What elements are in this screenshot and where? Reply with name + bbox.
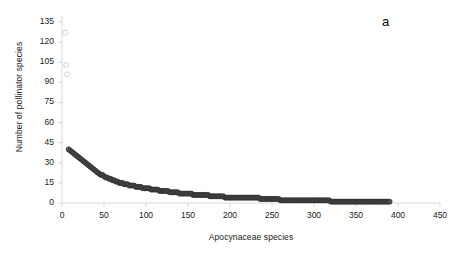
series-rank-abundance xyxy=(66,147,392,204)
data-point xyxy=(65,72,70,77)
plot-canvas xyxy=(0,0,475,255)
series-outliers xyxy=(63,30,70,77)
data-point xyxy=(64,62,69,67)
data-point xyxy=(63,30,68,35)
data-point xyxy=(387,199,392,204)
scatter-plot-figure: Number of pollinator species Apocynaceae… xyxy=(0,0,475,255)
